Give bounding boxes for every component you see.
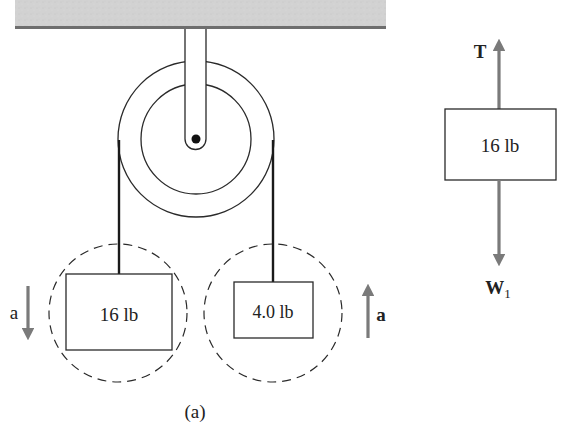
axle-pin — [192, 135, 201, 144]
fbd-block-label: 16 lb — [481, 135, 520, 156]
right-block-label: 4.0 lb — [252, 302, 293, 322]
pulley-diagram: 16 lb 4.0 lb a a T 16 lb W1 (a) — [0, 0, 567, 431]
right-acceleration: a — [368, 290, 386, 338]
left-block-label: 16 lb — [100, 304, 139, 325]
free-body-diagram: T 16 lb W1 — [445, 41, 556, 301]
weight-label: W1 — [485, 277, 511, 301]
left-accel-label: a — [10, 302, 19, 323]
pulley-bracket — [185, 29, 206, 150]
left-block: 16 lb — [66, 274, 172, 350]
right-block: 4.0 lb — [234, 282, 313, 338]
tension-label: T — [474, 41, 487, 62]
figure-caption: (a) — [184, 401, 205, 423]
ceiling — [15, 0, 386, 29]
right-accel-label: a — [376, 304, 386, 325]
left-acceleration: a — [10, 286, 28, 334]
